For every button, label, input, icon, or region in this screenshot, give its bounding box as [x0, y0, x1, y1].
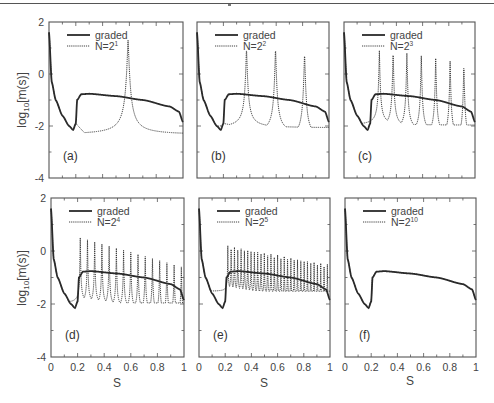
y-axis-title-bottom: log10[m(s)] — [15, 250, 31, 306]
legend: gradedN=21 — [67, 29, 128, 52]
dotted-series-line — [51, 209, 184, 303]
chart-panel-b: gradedN=22(b) — [197, 22, 329, 178]
x-tick-label: 0 — [342, 361, 348, 373]
panel-label: (d) — [65, 328, 80, 342]
y-tick-label: -4 — [35, 172, 44, 184]
x-tick-label: 0.8 — [442, 361, 457, 373]
chart-panel-d: 20-2-400.20.40.60.81gradedN=24(d) — [37, 192, 187, 373]
x-tick-label: 1 — [181, 361, 187, 373]
x-tick-label: 0.6 — [416, 361, 431, 373]
legend-label-n: N=25 — [245, 216, 269, 228]
y-tick-label: 0 — [38, 68, 44, 80]
legend: gradedN=210 — [363, 205, 424, 228]
panel-label: (e) — [213, 328, 228, 342]
legend: gradedN=23 — [362, 29, 423, 52]
y-tick-label: -2 — [35, 120, 44, 132]
x-tick-label: 0.8 — [150, 361, 165, 373]
y-tick-label: 2 — [40, 192, 46, 204]
chart-panel-c: gradedN=23(c) — [344, 22, 475, 178]
chart-panel-e: 00.20.40.60.81gradedN=25(e) — [196, 198, 333, 373]
x-axis-title-d: S — [113, 376, 121, 390]
dotted-series-line — [197, 32, 329, 127]
x-tick-label: 0.2 — [218, 361, 233, 373]
panel-label: (a) — [63, 149, 78, 163]
panel-label: (c) — [358, 149, 372, 163]
legend-label-n: N=24 — [97, 216, 121, 228]
chart-panel-f: 00.20.40.60.81gradedN=210(f) — [342, 198, 479, 373]
dotted-series-line — [49, 32, 183, 133]
chart-panel-a: 20-2-4gradedN=21(a) — [35, 16, 183, 184]
x-tick-label: 0.6 — [270, 361, 285, 373]
y-tick-label: -2 — [37, 298, 46, 310]
x-tick-label: 0.4 — [244, 361, 259, 373]
x-tick-label: 0.2 — [70, 361, 85, 373]
svg-text:log10[m(s)]: log10[m(s)] — [15, 250, 31, 306]
legend: gradedN=25 — [217, 205, 278, 228]
legend-label-n: N=21 — [95, 40, 119, 52]
legend-label-n: N=210 — [391, 216, 418, 228]
legend: gradedN=24 — [69, 205, 130, 228]
y-axis-title-top: log10[m(s)] — [15, 72, 31, 128]
x-tick-label: 0.6 — [123, 361, 138, 373]
y-tick-label: 2 — [38, 16, 44, 28]
x-axis-title-e: S — [260, 376, 268, 390]
x-tick-label: 0 — [196, 361, 202, 373]
graded-series-line — [197, 32, 329, 129]
svg-text:log10[m(s)]: log10[m(s)] — [15, 72, 31, 128]
figure-canvas: 20-2-4gradedN=21(a)gradedN=22(b)gradedN=… — [0, 0, 494, 403]
graded-series-line — [49, 32, 183, 129]
x-tick-label: 0.2 — [364, 361, 379, 373]
x-tick-label: 0.8 — [296, 361, 311, 373]
x-tick-label: 0 — [48, 361, 54, 373]
x-tick-label: 1 — [327, 361, 333, 373]
legend-label-n: N=22 — [243, 40, 267, 52]
y-tick-label: 0 — [40, 245, 46, 257]
panel-label: (b) — [211, 149, 226, 163]
legend-label-n: N=23 — [390, 40, 414, 52]
x-tick-label: 1 — [473, 361, 479, 373]
legend: gradedN=22 — [215, 29, 276, 52]
y-tick-label: -4 — [37, 351, 46, 363]
x-tick-label: 0.4 — [390, 361, 405, 373]
x-tick-label: 0.4 — [97, 361, 112, 373]
panel-label: (f) — [359, 328, 370, 342]
panels-layer: 20-2-4gradedN=21(a)gradedN=22(b)gradedN=… — [35, 16, 479, 373]
x-axis-title-f: S — [406, 374, 414, 388]
